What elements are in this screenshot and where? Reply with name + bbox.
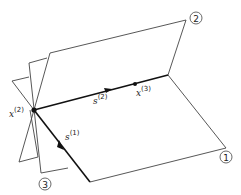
label-s2: s(2): [93, 93, 108, 106]
plane-2-outline: [34, 20, 186, 110]
plane-3-outline: [12, 77, 38, 162]
svg-text:2: 2: [193, 14, 199, 24]
plane-middle-outline: [29, 58, 68, 173]
label-x2: x(2): [9, 106, 24, 119]
svg-text:1: 1: [223, 153, 229, 163]
plane-1-badge: 1: [220, 151, 232, 163]
point-x3-icon: [133, 82, 137, 86]
diagram-canvas: x(2) x(3) s(2) s(1) 2 1 3: [0, 0, 241, 195]
label-s1: s(1): [65, 129, 80, 142]
plane-3-badge: 3: [39, 178, 51, 190]
plane-1-outline: [90, 75, 226, 182]
plane-2-badge: 2: [190, 12, 202, 24]
svg-text:3: 3: [42, 180, 48, 190]
label-x3: x(3): [136, 85, 151, 98]
point-x2-icon: [31, 107, 36, 112]
